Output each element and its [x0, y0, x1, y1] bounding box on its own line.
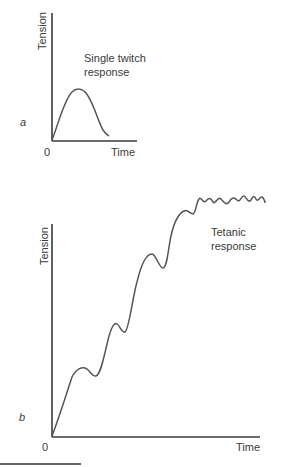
panel-b-axes — [52, 224, 260, 437]
panel-b-x-axis-label: Time — [236, 441, 260, 454]
panel-a-annotation-line1: Single twitch — [84, 52, 146, 65]
panel-a-origin-label: 0 — [44, 146, 50, 159]
panel-b-annotation-line1: Tetanic — [211, 226, 246, 239]
panel-a-label: a — [20, 116, 26, 129]
panel-b-label: b — [19, 411, 25, 424]
single-twitch-curve — [52, 89, 109, 140]
panel-a-annotation-line2: response — [84, 66, 129, 79]
panel-b-origin-label: 0 — [42, 441, 48, 454]
panel-a-x-axis-label: Time — [111, 146, 135, 159]
panel-b-annotation-line2: response — [211, 240, 256, 253]
panel-b-y-axis-label: Tension — [38, 227, 50, 265]
panel-a-y-axis-label: Tension — [36, 12, 48, 50]
